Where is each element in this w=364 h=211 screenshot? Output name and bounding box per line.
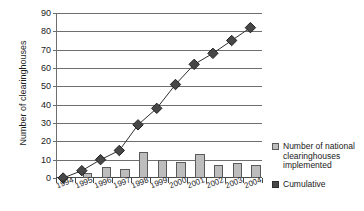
y-tick-label: 20 (41, 136, 51, 146)
y-tick-label: 90 (41, 8, 51, 18)
chart-legend: Number of national clearinghouses implem… (272, 142, 364, 198)
bar-swatch-icon (272, 143, 279, 150)
cumulative-marker (208, 48, 218, 58)
cumulative-marker (114, 145, 124, 155)
y-tick-label: 10 (41, 155, 51, 165)
cumulative-swatch-icon (272, 181, 279, 188)
plot-area: 0102030405060708090 (56, 13, 262, 178)
cumulative-marker (245, 22, 255, 32)
y-tick-label: 30 (41, 118, 51, 128)
y-tick-label: 50 (41, 81, 51, 91)
y-tick-label: 80 (41, 26, 51, 36)
cumulative-marker (95, 154, 105, 164)
y-tick-label: 40 (41, 100, 51, 110)
y-tick-label: 60 (41, 63, 51, 73)
y-tick-label: 0 (46, 173, 51, 183)
chart-container: Number of clearinghouses 010203040506070… (0, 0, 364, 211)
cumulative-marker (77, 165, 87, 175)
x-axis-tick-labels: 1994199519961997199819992000200120022003… (56, 182, 262, 210)
legend-item-cumulative: Cumulative (272, 180, 364, 190)
y-axis-title: Number of clearinghouses (18, 13, 28, 173)
legend-item-bars: Number of national clearinghouses implem… (272, 142, 364, 171)
y-tick-label: 70 (41, 45, 51, 55)
legend-label-cumulative: Cumulative (283, 180, 364, 190)
legend-label-bars: Number of national clearinghouses implem… (283, 142, 364, 171)
cumulative-line-series (56, 13, 262, 178)
cumulative-marker (226, 35, 236, 45)
